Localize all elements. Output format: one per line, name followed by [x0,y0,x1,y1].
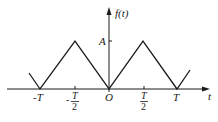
tick-label-T: T [173,91,180,103]
tick-label-neg-half-T-den: 2 [72,101,77,112]
tick-label-half-T-num: T [141,90,148,101]
tick-label-neg-half-T-sign: - [66,94,69,105]
amplitude-label: A [98,35,106,47]
x-axis-label: t [208,90,212,102]
triangle-wave-diagram: f(t) A t -T - T 2 O T 2 T [0,0,218,122]
origin-label: O [105,91,113,103]
y-axis-arrow-icon [107,7,112,15]
y-axis-label: f(t) [115,7,129,20]
tick-label-half-T-den: 2 [141,101,146,112]
tick-label-neg-T: -T [33,91,44,103]
tick-label-neg-half-T-num: T [72,90,79,101]
